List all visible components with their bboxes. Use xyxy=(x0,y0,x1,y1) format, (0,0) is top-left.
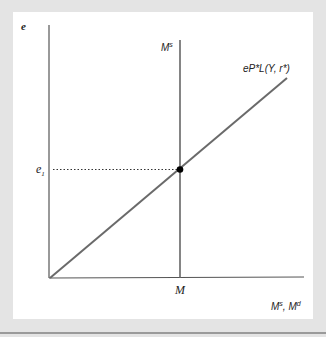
money-supply-label: Ms xyxy=(161,41,173,53)
equilibrium-point xyxy=(177,166,184,173)
e1-label: e1 xyxy=(36,163,45,178)
x-axis-label: Ms, Md xyxy=(271,300,301,312)
m-tick-label: M xyxy=(175,284,185,296)
y-axis-label: e xyxy=(21,21,26,32)
x-axis xyxy=(49,277,304,278)
money-demand-label: eP*L(Y, r*) xyxy=(243,64,290,74)
money-demand-line xyxy=(50,78,287,278)
